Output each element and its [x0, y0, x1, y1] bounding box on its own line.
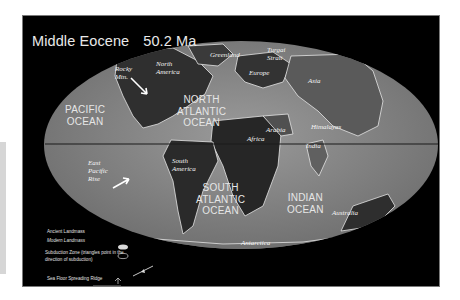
- label-indian-ocean: INDIAN OCEAN: [287, 192, 324, 215]
- legend-modern-landmass: Modern Landmass: [47, 238, 85, 243]
- legend-spreading-ridge: Sea Floor Spreading Ridge: [47, 276, 102, 281]
- ocean-label-line: OCEAN: [65, 116, 105, 128]
- label-rocky-mtn: Rocky Mtn.: [115, 65, 132, 81]
- ocean-label-line: NORTH: [177, 94, 226, 106]
- side-strip: [0, 142, 6, 274]
- map-title: Middle Eocene50.2 Ma: [32, 33, 196, 49]
- label-greenland: Greenland: [210, 51, 240, 59]
- label-africa: Africa: [247, 135, 265, 143]
- spreading-ridge-symbol-icon: [93, 286, 143, 287]
- land-label-line: Rise: [88, 175, 108, 183]
- paleomap-frame: Middle Eocene50.2 Ma PACIFIC OCEAN NORTH…: [22, 15, 440, 287]
- land-label-line: Turgai: [267, 46, 285, 54]
- up-arrow-icon: [115, 278, 121, 284]
- ocean-label-line: OCEAN: [196, 205, 245, 217]
- ocean-label-line: OCEAN: [177, 117, 226, 129]
- ocean-label-line: PACIFIC: [65, 104, 105, 116]
- land-label-line: America: [172, 165, 196, 173]
- land-label-line: North: [156, 60, 180, 68]
- label-east-pacific-rise: East Pacific Rise: [88, 159, 108, 183]
- label-arabia: Arabia: [266, 126, 285, 134]
- land-label-line: America: [156, 68, 180, 76]
- label-turgai-strait: Turgai Strait: [267, 46, 285, 62]
- label-south-atlantic-ocean: SOUTH ATLANTIC OCEAN: [196, 182, 245, 217]
- ocean-label-line: INDIAN: [287, 192, 324, 204]
- label-europe: Europe: [249, 69, 269, 77]
- label-pacific-ocean: PACIFIC OCEAN: [65, 104, 105, 127]
- land-label-line: Pacific: [88, 167, 108, 175]
- ocean-label-line: ATLANTIC: [177, 106, 226, 118]
- legend-subduction-zone-line2: direction of subduction): [45, 257, 93, 262]
- land-label-line: Strait: [267, 54, 285, 62]
- epoch-age: 50.2 Ma: [143, 33, 196, 49]
- land-label-line: Rocky: [115, 65, 132, 73]
- ocean-label-line: SOUTH: [196, 182, 245, 194]
- label-australia: Australia: [332, 209, 358, 217]
- label-south-america: South America: [172, 157, 196, 173]
- legend-ancient-landmass: Ancient Landmass: [47, 229, 85, 234]
- label-india: India: [306, 142, 321, 150]
- ancient-landmass-swatch-icon: [118, 244, 128, 249]
- label-antarctica: Antarctica: [241, 239, 270, 247]
- label-north-atlantic-ocean: NORTH ATLANTIC OCEAN: [177, 94, 226, 129]
- land-label-line: South: [172, 157, 196, 165]
- label-north-america: North America: [156, 60, 180, 76]
- legend-subduction-zone-line1: Subduction Zone (triangles point in the: [45, 250, 124, 255]
- ocean-label-line: OCEAN: [287, 204, 324, 216]
- epoch-name: Middle Eocene: [32, 33, 129, 49]
- land-label-line: East: [88, 159, 108, 167]
- ocean-label-line: ATLANTIC: [196, 194, 245, 206]
- land-label-line: Mtn.: [115, 73, 132, 81]
- label-himalayas: Himalayas: [311, 123, 341, 131]
- label-asia: Asia: [308, 77, 320, 85]
